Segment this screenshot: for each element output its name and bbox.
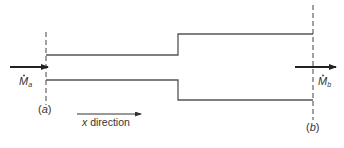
outlet-dot-accent	[322, 75, 324, 77]
inlet-flow-label: Ma	[19, 75, 32, 88]
section-b-label: (b)	[306, 121, 319, 133]
x-direction-label: x direction	[81, 116, 130, 128]
outlet-flow-label: Mb	[318, 75, 331, 88]
outlet-flow-subscript: b	[327, 81, 331, 88]
inlet-flow-subscript: a	[28, 81, 32, 88]
inlet-dot-accent	[23, 75, 25, 77]
section-a-label: (a)	[38, 103, 51, 115]
svg-text:Mb: Mb	[318, 75, 331, 88]
svg-text:Ma: Ma	[19, 75, 32, 88]
pipe-expansion-diagram: Ma Mb (a) (b) x direction	[0, 0, 344, 148]
pipe-top-wall	[46, 34, 313, 55]
pipe-walls	[46, 34, 313, 100]
pipe-bottom-wall	[46, 80, 313, 100]
